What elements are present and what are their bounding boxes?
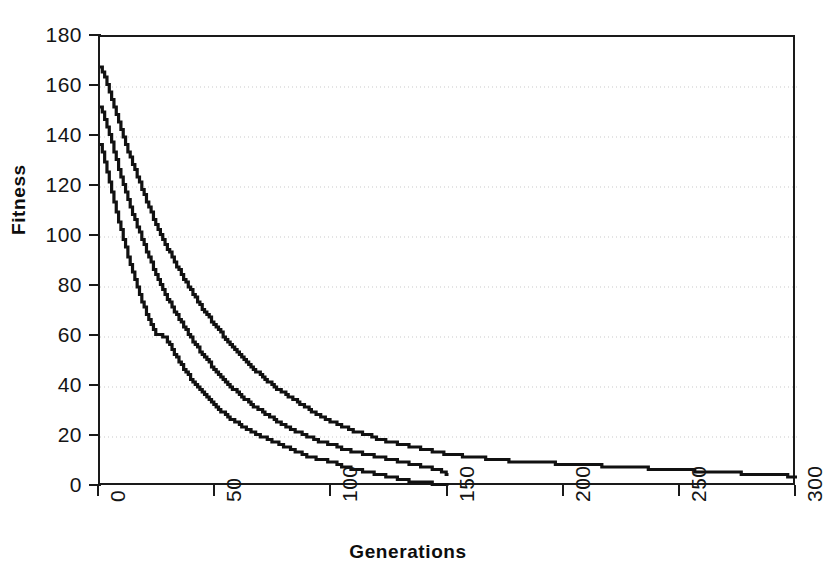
y-tick-label: 140	[45, 124, 82, 145]
x-tick-label: 50	[222, 478, 246, 502]
chart-title	[0, 4, 816, 18]
y-tick-label: 20	[58, 424, 82, 445]
x-tick-mark	[213, 485, 215, 496]
x-tick-mark	[794, 485, 796, 496]
data-line-run-2-medium-convergence	[100, 107, 449, 475]
x-tick-label: 150	[455, 465, 479, 502]
x-tick-mark	[329, 485, 331, 496]
y-axis-tick-labels: 020406080100120140160180	[0, 0, 82, 583]
x-tick-label: 200	[571, 465, 595, 502]
y-tick-label: 180	[45, 24, 82, 45]
data-line-run-3-fast-convergence	[100, 145, 449, 485]
x-tick-label: 300	[803, 465, 827, 502]
x-tick-mark	[97, 485, 99, 496]
data-line-run-1-slow-convergence	[100, 67, 797, 477]
data-series-group	[100, 67, 797, 485]
y-tick-label: 40	[58, 374, 82, 395]
x-tick-label: 0	[106, 490, 130, 502]
y-tick-label: 80	[58, 274, 82, 295]
x-tick-mark	[446, 485, 448, 496]
plot-area	[98, 35, 795, 485]
x-tick-mark	[678, 485, 680, 496]
y-tick-label: 160	[45, 74, 82, 95]
x-tick-label: 100	[338, 465, 362, 502]
x-tick-label: 250	[687, 465, 711, 502]
gridlines	[100, 87, 797, 437]
plot-svg	[100, 37, 797, 487]
y-axis-title: Fitness	[8, 164, 30, 235]
y-tick-label: 0	[70, 474, 82, 495]
y-tick-label: 100	[45, 224, 82, 245]
y-tick-label: 120	[45, 174, 82, 195]
x-tick-mark	[562, 485, 564, 496]
x-axis-title: Generations	[0, 541, 816, 563]
y-tick-label: 60	[58, 324, 82, 345]
